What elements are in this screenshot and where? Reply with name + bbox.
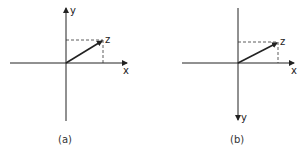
label-z: z — [105, 34, 110, 45]
label-y: y — [241, 112, 247, 123]
label-x: x — [291, 65, 297, 76]
panel-a: y z x (a) — [10, 5, 129, 145]
vector-z — [66, 41, 102, 63]
label-z: z — [280, 36, 285, 47]
label-y: y — [70, 5, 76, 16]
label-x: x — [123, 65, 129, 76]
panel-b: z x y (b) — [182, 8, 297, 145]
coordinate-diagrams: y z x (a) z x y (b) — [0, 0, 308, 148]
caption-b: (b) — [230, 134, 244, 145]
caption-a: (a) — [58, 134, 72, 145]
vector-z — [238, 43, 277, 63]
